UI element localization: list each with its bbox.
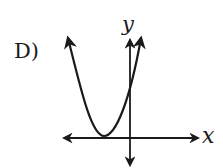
graph	[0, 0, 223, 168]
